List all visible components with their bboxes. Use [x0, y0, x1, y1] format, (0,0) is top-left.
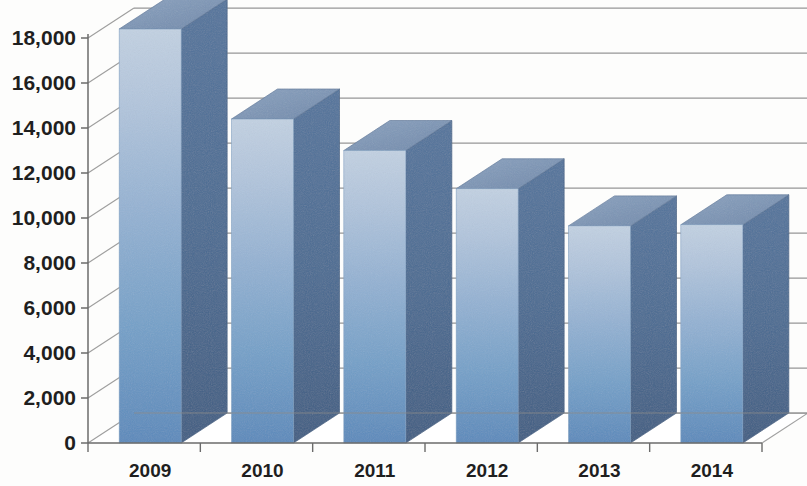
bar-2009: [119, 0, 227, 443]
x-tick-label: 2010: [203, 461, 323, 480]
y-tick-label: 16,000: [12, 72, 76, 93]
y-tick-label: 14,000: [12, 117, 76, 138]
bar-2013: [569, 196, 677, 443]
y-tick-label: 4,000: [23, 342, 76, 363]
bar-2012: [456, 159, 564, 443]
bar-side-face: [294, 89, 340, 443]
x-tick-label: 2012: [427, 461, 547, 480]
bar-2010: [232, 89, 340, 443]
x-tick-label: 2014: [652, 461, 772, 480]
bar-2011: [344, 121, 452, 444]
y-tick-label: 10,000: [12, 207, 76, 228]
bar-side-face: [743, 195, 789, 443]
x-tick-label: 2013: [540, 461, 660, 480]
y-tick-label: 8,000: [23, 252, 76, 273]
bars-group: [119, 0, 789, 443]
bar-chart-3d: 02,0004,0006,0008,00010,00012,00014,0001…: [0, 0, 807, 486]
bar-2014: [681, 195, 789, 443]
y-tick-label: 12,000: [12, 162, 76, 183]
bar-side-face: [406, 121, 452, 444]
y-tick-label: 6,000: [23, 297, 76, 318]
bar-front-face: [119, 29, 181, 443]
bar-front-face: [456, 189, 518, 443]
bar-front-face: [344, 151, 406, 444]
x-tick-label: 2011: [315, 461, 435, 480]
bar-side-face: [518, 159, 564, 443]
bar-front-face: [681, 225, 743, 443]
y-tick-label: 0: [64, 432, 76, 453]
y-tick-label: 18,000: [12, 27, 76, 48]
x-tick-label: 2009: [90, 461, 210, 480]
y-tick-label: 2,000: [23, 387, 76, 408]
chart-canvas: [0, 0, 807, 486]
bar-front-face: [569, 226, 631, 443]
bar-side-face: [631, 196, 677, 443]
bar-front-face: [232, 119, 294, 443]
bar-side-face: [181, 0, 227, 443]
